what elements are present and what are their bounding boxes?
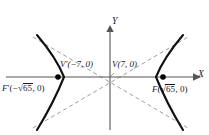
vertex-right-leader [110, 73, 114, 77]
vertex-left-label: V′(−7, 0) [60, 60, 93, 69]
hyperbola-graphic [0, 0, 209, 135]
y-axis-label: Y [112, 17, 117, 27]
x-axis-label: X [198, 70, 204, 80]
label-leader-marks [110, 73, 114, 77]
focus-right-radicand: 65 [165, 84, 175, 94]
focus-left-point [55, 74, 61, 80]
focus-left-close-paren: ) [42, 83, 45, 93]
focus-left-rest: , 0 [33, 83, 42, 93]
x-axis-label-text: X [198, 69, 204, 79]
focus-left-radicand: 65 [23, 83, 33, 93]
vertex-right-label: V(7, 0) [112, 60, 137, 69]
hyperbola-figure: V′(−7, 0) V(7, 0) F′(−√65, 0) F(√65, 0) … [0, 0, 209, 135]
focus-right-label: F(√65, 0) [152, 84, 187, 94]
square-root-icon: √65 [161, 84, 176, 94]
right-branch [156, 35, 183, 130]
vertex-left-label-text: V′(−7, 0) [60, 59, 93, 69]
y-axis-label-text: Y [112, 16, 117, 26]
focus-right-point [160, 74, 166, 80]
square-root-icon: √65 [18, 83, 33, 93]
focus-left-label: F′(−√65, 0) [2, 83, 45, 93]
vertex-right-label-text: V(7, 0) [112, 59, 137, 69]
focus-right-close-paren: ) [184, 84, 187, 94]
